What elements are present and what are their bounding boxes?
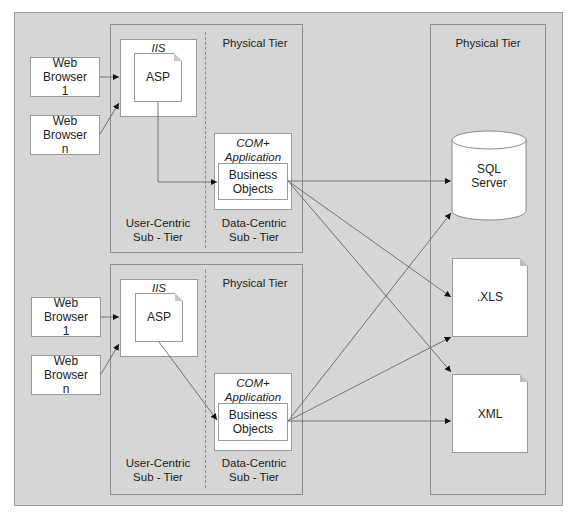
sql-server-label[interactable]: SQLServer — [452, 162, 526, 190]
xls-label: .XLS — [453, 290, 527, 304]
page-fold-icon — [520, 258, 528, 266]
page-fold-icon — [520, 374, 528, 382]
xls-document[interactable]: .XLS — [452, 258, 528, 337]
xml-document[interactable]: XML — [452, 374, 528, 453]
xml-label: XML — [453, 407, 527, 421]
